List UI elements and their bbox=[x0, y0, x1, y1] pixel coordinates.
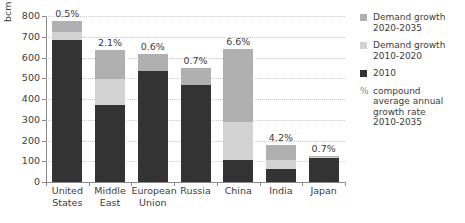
legend-label-line: 2020-2035 bbox=[373, 23, 465, 34]
legend-label-line: 2010-2020 bbox=[373, 51, 465, 62]
bar-segment[interactable] bbox=[138, 71, 168, 182]
legend-label-line: average annual bbox=[373, 96, 465, 107]
bar-segment[interactable] bbox=[223, 122, 253, 160]
bar-group[interactable]: 0.5% bbox=[52, 16, 82, 182]
x-axis-label-line: United bbox=[46, 185, 89, 197]
stacked-bar-chart: bcm 0.5%2.1%0.6%0.7%6.6%4.2%0.7% 0100200… bbox=[0, 0, 465, 223]
bar-value-label: 4.2% bbox=[251, 133, 311, 143]
legend-label-line: 2010-2035 bbox=[373, 117, 465, 128]
y-tick-label-200: 200 bbox=[14, 136, 40, 146]
legend-label: Demand growth2010-2020 bbox=[373, 40, 465, 61]
bar-value-label: 6.6% bbox=[208, 37, 268, 47]
legend-swatch-medium-gray-square bbox=[360, 14, 367, 21]
legend-item[interactable]: %compoundaverage annualgrowth rate2010-2… bbox=[360, 86, 465, 128]
x-axis-label: EuropeanUnion bbox=[131, 185, 174, 208]
x-axis-label-line: Japan bbox=[302, 185, 345, 197]
x-axis-label: UnitedStates bbox=[46, 185, 89, 208]
bar-segment[interactable] bbox=[138, 54, 168, 71]
x-axis-label-line: States bbox=[46, 197, 89, 209]
y-tick-label-300: 300 bbox=[14, 115, 40, 125]
x-axis-label-line: East bbox=[89, 197, 132, 209]
y-tick-label-500: 500 bbox=[14, 73, 40, 83]
bar-segment[interactable] bbox=[181, 85, 211, 182]
bar-segment[interactable] bbox=[95, 79, 125, 104]
x-axis-label: China bbox=[217, 185, 260, 197]
x-axis-label: Russia bbox=[174, 185, 217, 197]
bar-series-container: 0.5%2.1%0.6%0.7%6.6%4.2%0.7% bbox=[46, 16, 345, 182]
bar-segment[interactable] bbox=[52, 32, 82, 41]
y-tick-label-100: 100 bbox=[14, 156, 40, 166]
y-axis-title: bcm bbox=[2, 1, 13, 22]
legend-swatch-light-gray-square bbox=[360, 42, 367, 49]
x-axis-label-line: China bbox=[217, 185, 260, 197]
y-tick-label-700: 700 bbox=[14, 32, 40, 42]
bar-value-label: 0.7% bbox=[294, 144, 354, 154]
bar-segment[interactable] bbox=[266, 169, 296, 182]
bar-segment[interactable] bbox=[52, 21, 82, 31]
x-axis-labels: UnitedStatesMiddleEastEuropeanUnionRussi… bbox=[46, 185, 345, 219]
bar-group[interactable]: 4.2% bbox=[266, 16, 296, 182]
legend-label: Demand growth2020-2035 bbox=[373, 12, 465, 33]
legend-label-line: Demand growth bbox=[373, 12, 465, 23]
x-axis-label-line: European bbox=[131, 185, 174, 197]
y-tick-label-400: 400 bbox=[14, 94, 40, 104]
bar-group[interactable]: 0.7% bbox=[181, 16, 211, 182]
y-tick-label-0: 0 bbox=[14, 177, 40, 187]
bar-segment[interactable] bbox=[223, 160, 253, 182]
y-tick-label-600: 600 bbox=[14, 53, 40, 63]
bar-segment[interactable] bbox=[95, 105, 125, 182]
bar-segment[interactable] bbox=[95, 50, 125, 79]
legend-label-line: Demand growth bbox=[373, 40, 465, 51]
x-axis-label: Japan bbox=[302, 185, 345, 197]
bar-value-label: 0.6% bbox=[123, 42, 183, 52]
bar-group[interactable]: 0.7% bbox=[309, 16, 339, 182]
x-axis-label: MiddleEast bbox=[89, 185, 132, 208]
plot-area: 0.5%2.1%0.6%0.7%6.6%4.2%0.7% bbox=[46, 16, 345, 182]
bar-segment[interactable] bbox=[266, 145, 296, 160]
bar-segment[interactable] bbox=[309, 158, 339, 182]
y-tick-label-800: 800 bbox=[14, 11, 40, 21]
x-axis-label-line: India bbox=[260, 185, 303, 197]
x-axis-label-line: Russia bbox=[174, 185, 217, 197]
bar-segment[interactable] bbox=[52, 40, 82, 182]
legend-label-line: 2010 bbox=[373, 68, 465, 79]
bar-value-label: 0.5% bbox=[37, 9, 97, 19]
legend-swatch-dark-square bbox=[360, 70, 367, 77]
bar-segment[interactable] bbox=[181, 68, 211, 85]
x-axis-label: India bbox=[260, 185, 303, 197]
legend-label-line: growth rate bbox=[373, 107, 465, 118]
chart-legend: Demand growth2020-2035Demand growth2010-… bbox=[360, 12, 465, 135]
bar-segment[interactable] bbox=[266, 160, 296, 169]
bar-group[interactable]: 6.6% bbox=[223, 16, 253, 182]
bar-segment[interactable] bbox=[309, 157, 339, 158]
legend-label: compoundaverage annualgrowth rate2010-20… bbox=[373, 86, 465, 128]
bar-segment[interactable] bbox=[223, 49, 253, 122]
legend-label: 2010 bbox=[373, 68, 465, 79]
x-axis-label-line: Middle bbox=[89, 185, 132, 197]
bar-segment[interactable] bbox=[309, 156, 339, 157]
legend-item[interactable]: Demand growth2010-2020 bbox=[360, 40, 465, 61]
bar-value-label: 0.7% bbox=[166, 56, 226, 66]
x-axis-label-line: Union bbox=[131, 197, 174, 209]
legend-item[interactable]: Demand growth2020-2035 bbox=[360, 12, 465, 33]
bar-group[interactable]: 2.1% bbox=[95, 16, 125, 182]
legend-label-line: compound bbox=[373, 86, 465, 97]
gridline-0 bbox=[46, 182, 345, 183]
bar-group[interactable]: 0.6% bbox=[138, 16, 168, 182]
legend-item[interactable]: 2010 bbox=[360, 68, 465, 79]
legend-swatch-percent-glyph: % bbox=[360, 86, 367, 97]
x-tick bbox=[345, 182, 346, 186]
